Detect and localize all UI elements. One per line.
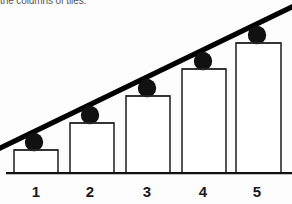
ball-marker-2 (81, 106, 99, 124)
bar-2 (70, 123, 114, 173)
ball-marker-3 (138, 79, 156, 97)
x-tick-label-4: 4 (199, 183, 208, 200)
bar-3 (126, 96, 170, 173)
x-tick-label-5: 5 (253, 183, 261, 200)
bars-group (14, 43, 281, 173)
bar-1 (14, 150, 58, 173)
x-axis-labels-group: 1 2 3 4 5 (32, 183, 261, 200)
ball-marker-1 (25, 133, 43, 151)
ball-marker-5 (248, 26, 266, 44)
x-tick-label-1: 1 (32, 183, 40, 200)
x-tick-label-3: 3 (143, 183, 151, 200)
ball-marker-4 (194, 52, 212, 70)
bar-4 (182, 69, 226, 173)
bar-5 (236, 43, 281, 173)
bar-chart-with-trendline: 1 2 3 4 5 (0, 0, 292, 204)
x-tick-label-2: 2 (86, 183, 94, 200)
